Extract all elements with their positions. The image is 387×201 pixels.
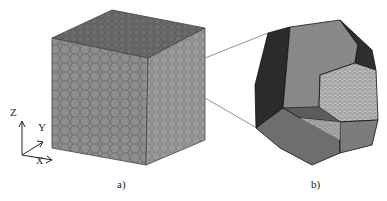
y-axis-label: Y	[38, 121, 46, 133]
x-axis-label: X	[36, 155, 43, 166]
zoom-line-top	[205, 33, 268, 58]
z-axis-label: Z	[10, 106, 17, 118]
hex-grain-cube	[52, 10, 205, 165]
figure-canvas	[0, 0, 387, 201]
cube-front-face	[52, 38, 148, 165]
panel-label-b: b)	[311, 178, 320, 190]
y-axis-arrow	[22, 142, 43, 155]
polyhedral-grain	[255, 20, 378, 165]
panel-label-a: a)	[117, 178, 126, 190]
zoom-line-bottom	[205, 98, 262, 131]
